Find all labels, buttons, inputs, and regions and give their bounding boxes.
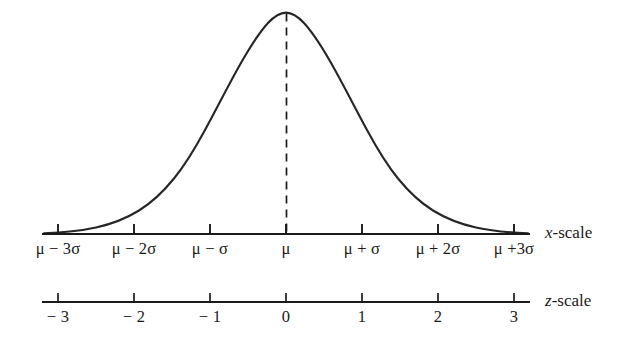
z-tick-label-zero: 0 [282,309,290,326]
z-scale-variable: z [545,291,552,310]
z-tick-label-plus-2: 2 [434,309,442,326]
z-scale-suffix: -scale [552,291,592,310]
z-tick-label-plus-3: 3 [510,309,518,326]
z-axis-ticks [58,293,514,302]
x-tick-label-mu: μ [281,241,290,258]
x-tick-label-plus-3-sigma: μ +3σ [494,241,534,258]
z-tick-label-minus-1: − 1 [199,309,221,326]
x-tick-label-minus-1-sigma: μ − σ [192,241,228,258]
z-tick-label-plus-1: 1 [358,309,366,326]
plot-canvas [0,0,635,342]
x-axis-ticks [58,224,514,234]
normal-distribution-figure: μ − 3σ μ − 2σ μ − σ μ μ + σ μ + 2σ μ +3σ… [0,0,635,342]
x-scale-axis-name: x-scale [545,224,592,241]
x-scale-variable: x [545,223,553,242]
z-scale-axis-name: z-scale [545,292,591,309]
x-scale-suffix: -scale [553,223,593,242]
x-tick-label-plus-2-sigma: μ + 2σ [416,241,461,258]
z-tick-label-minus-2: − 2 [123,309,145,326]
x-tick-label-minus-2-sigma: μ − 2σ [112,241,157,258]
x-tick-label-minus-3-sigma: μ − 3σ [36,241,81,258]
z-tick-label-minus-3: − 3 [47,309,69,326]
x-tick-label-plus-1-sigma: μ + σ [344,241,380,258]
